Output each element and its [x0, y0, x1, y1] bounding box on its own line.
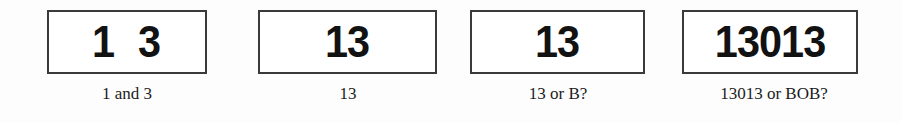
example-panel: 1 3 1 and 3: [20, 0, 234, 123]
glyph-text: 1 3: [92, 19, 161, 64]
example-panel: 13 13: [240, 0, 456, 123]
glyph-text: 13: [535, 19, 579, 64]
example-panel: 13013 13013 or BOB?: [666, 0, 882, 123]
example-panel: 13 13 or B?: [456, 0, 660, 123]
glyph-text: 13: [325, 19, 369, 64]
panel-caption: 13: [240, 84, 456, 104]
glyph-box: 13: [470, 10, 645, 74]
glyph-box: 13013: [682, 10, 858, 74]
figure-container: 1 3 1 and 3 13 13 13 13 or B? 13013 1301…: [0, 0, 902, 123]
panel-caption: 13 or B?: [456, 84, 660, 104]
glyph-text: 13013: [715, 19, 826, 64]
panel-caption: 1 and 3: [20, 84, 234, 104]
glyph-box: 13: [258, 10, 437, 74]
panel-caption: 13013 or BOB?: [666, 84, 882, 104]
glyph-box: 1 3: [47, 10, 207, 74]
